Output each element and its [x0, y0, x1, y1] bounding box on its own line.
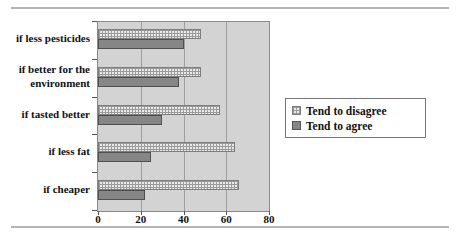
legend: Tend to disagree Tend to agree: [285, 98, 426, 138]
document-page: if less pesticidesif better for the envi…: [0, 0, 459, 240]
bottom-rule: [11, 226, 449, 228]
legend-swatch-hatched-icon: [292, 106, 301, 115]
category-axis-tick: [92, 59, 97, 60]
top-rule: [11, 7, 449, 9]
bar-tend-to-agree: [98, 39, 184, 49]
bar-tend-to-agree: [98, 190, 145, 200]
category-label: if better for the environment: [0, 62, 90, 90]
bar-tend-to-agree: [98, 77, 179, 87]
category-label: if less fat: [0, 144, 90, 158]
x-tick-label: 60: [221, 213, 232, 225]
legend-item-agree: Tend to agree: [292, 118, 420, 133]
bar-tend-to-agree: [98, 152, 151, 162]
legend-label-agree: Tend to agree: [306, 120, 372, 132]
legend-swatch-solid-icon: [292, 121, 301, 130]
category-axis-tick: [92, 97, 97, 98]
bar-tend-to-disagree: [98, 105, 220, 115]
x-tick-label: 80: [264, 213, 275, 225]
category-axis-tick: [92, 210, 97, 211]
category-axis-tick: [92, 21, 97, 22]
legend-item-disagree: Tend to disagree: [292, 103, 420, 118]
category-axis-tick: [92, 172, 97, 173]
x-tick-label: 40: [178, 213, 189, 225]
x-tick-label: 20: [135, 213, 146, 225]
category-label: if less pesticides: [0, 31, 90, 45]
plot-area: [97, 21, 270, 212]
bar-tend-to-disagree: [98, 142, 235, 152]
category-label: if tasted better: [0, 107, 90, 121]
category-axis-tick: [92, 134, 97, 135]
bar-tend-to-agree: [98, 115, 162, 125]
x-tick-label: 0: [95, 213, 101, 225]
bar-tend-to-disagree: [98, 29, 201, 39]
category-label: if cheaper: [0, 182, 90, 196]
bar-tend-to-disagree: [98, 67, 201, 77]
bar-tend-to-disagree: [98, 180, 239, 190]
legend-label-disagree: Tend to disagree: [306, 105, 387, 117]
